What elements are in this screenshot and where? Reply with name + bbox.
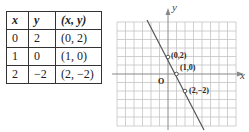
cell-x: 1 [7,48,29,66]
y-axis-arrow-icon [166,8,171,15]
cell-y: 0 [29,48,56,66]
cell-xy: (2, −2) [56,66,102,84]
cell-x: 2 [7,66,29,84]
y-axis-label: y [171,1,177,13]
x-axis-label: x [239,69,245,81]
table-row: 1 0 (1, 0) [7,48,102,66]
point-label-0-2: (0,2) [171,51,187,60]
point-label-2-neg2: (2,−2) [189,86,209,95]
cell-xy: (0, 2) [56,30,102,48]
cell-y: 2 [29,30,56,48]
table-row: 0 2 (0, 2) [7,30,102,48]
point-label-1-0: (1,0) [180,63,196,72]
table-header-row: x y (x, y) [7,12,102,30]
point-1-0 [175,72,179,76]
values-table: x y (x, y) 0 2 (0, 2) 1 0 (1, 0) 2 −2 (2… [6,11,102,84]
coordinate-graph: x y O (0,2) (1,0) (2,−2) [110,0,249,132]
cell-x: 0 [7,30,29,48]
header-x: x [7,12,29,30]
header-y: y [29,12,56,30]
origin-label: O [158,77,164,86]
cell-y: −2 [29,66,56,84]
point-0-2 [166,55,170,59]
table-row: 2 −2 (2, −2) [7,66,102,84]
header-xy: (x, y) [56,12,102,30]
cell-xy: (1, 0) [56,48,102,66]
point-2-neg2 [183,89,187,93]
